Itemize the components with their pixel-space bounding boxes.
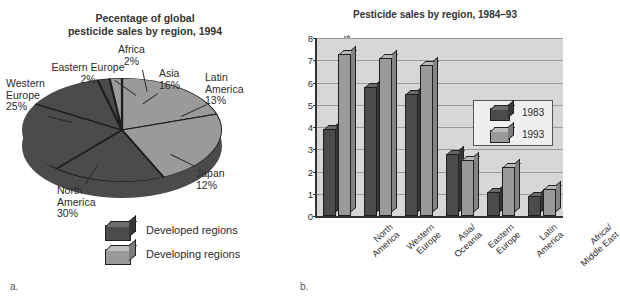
- pie-slices: [22, 78, 222, 182]
- cube-dark-icon: [490, 105, 512, 119]
- pie-legend-label-developing: Developing regions: [146, 248, 240, 260]
- bar: [364, 87, 377, 216]
- cube-light-icon: [105, 245, 135, 263]
- pie-label-japan-value: 12%: [196, 180, 225, 192]
- bar: [487, 192, 500, 216]
- pie-label-western-europe-l1: Western: [6, 78, 45, 90]
- pie-label-asia-value: 16%: [159, 80, 180, 92]
- bar: [379, 58, 392, 216]
- pie-label-japan: Japan 12%: [196, 168, 225, 191]
- pie-label-latin-america: Latin America 13%: [205, 72, 244, 107]
- x-axis-label: Africa/Middle East: [572, 222, 620, 268]
- bar: [420, 65, 433, 216]
- bar-legend-label-1993: 1993: [522, 129, 544, 140]
- y-axis-tick-label: 2: [308, 166, 313, 177]
- pie-title-line2: pesticide sales by region, 1994: [68, 25, 222, 37]
- bar-legend-item-1983: 1983: [474, 101, 552, 123]
- bar: [543, 189, 556, 216]
- y-axis-tick-label: 6: [308, 77, 313, 88]
- bar: [461, 160, 474, 216]
- x-axis-label: LatinAmerica: [527, 222, 565, 259]
- pie-label-western-europe-value: 25%: [6, 101, 45, 113]
- y-axis-tick-label: 3: [308, 144, 313, 155]
- pie-label-western-europe: Western Europe 25%: [6, 78, 45, 113]
- pie-legend-label-developed: Developed regions: [146, 224, 238, 236]
- bar-chart-legend: 1983 1993: [473, 100, 553, 146]
- bar: [405, 94, 418, 216]
- y-axis-tick-label: 0: [308, 211, 313, 222]
- figure-b-caption: b.: [300, 281, 308, 292]
- bar: [323, 129, 336, 216]
- bar-legend-item-1993: 1993: [474, 123, 552, 145]
- pie-label-eastern-europe-value: 2%: [33, 74, 143, 86]
- bar-legend-label-1983: 1983: [522, 107, 544, 118]
- pie-legend: Developed regions Developing regions: [105, 218, 240, 266]
- figure-a-caption: a.: [10, 281, 18, 292]
- y-axis-tick-label: 8: [308, 33, 313, 44]
- pie-graphic: [22, 78, 222, 203]
- cube-dark-icon: [105, 221, 135, 239]
- pie-label-africa-name: Africa: [118, 44, 145, 56]
- pie-top-face: [22, 78, 222, 182]
- y-axis-tick-label: 1: [308, 188, 313, 199]
- bar: [338, 54, 351, 216]
- y-axis-tick-label: 7: [308, 55, 313, 66]
- pie-title-line1: Pecentage of global: [95, 12, 194, 24]
- y-axis-tick-label: 5: [308, 99, 313, 110]
- pie-label-eastern-europe-name: Eastern Europe: [33, 62, 143, 74]
- pie-label-north-america-l1: North: [57, 185, 96, 197]
- bar: [446, 154, 459, 216]
- bar: [528, 196, 541, 216]
- cube-light-icon: [490, 127, 512, 141]
- bar-chart-plot-area: 012345678 1983 1993: [315, 38, 563, 218]
- x-axis-label: EasternEurope: [486, 222, 522, 258]
- pie-label-eastern-europe: Eastern Europe 2%: [33, 62, 143, 85]
- bar: [502, 167, 515, 216]
- figure-a-pie-chart: Pecentage of global pesticide sales by r…: [0, 0, 290, 302]
- pie-chart-title: Pecentage of global pesticide sales by r…: [0, 12, 290, 38]
- pie-label-latin-america-value: 13%: [205, 95, 244, 107]
- pie-legend-item-developing: Developing regions: [105, 242, 240, 266]
- y-axis-tick: [313, 216, 317, 217]
- pie-label-north-america-value: 30%: [57, 208, 96, 220]
- pie-label-latin-america-l1: Latin: [205, 72, 244, 84]
- bar-chart-title: Pesticide sales by region, 1984–93: [290, 9, 580, 20]
- pie-label-asia-name: Asia: [159, 68, 180, 80]
- pie-legend-item-developed: Developed regions: [105, 218, 240, 242]
- x-axis-label: WesternEurope: [405, 222, 443, 259]
- figure-b-bar-chart: Pesticide sales by region, 1984–93 Billi…: [290, 0, 580, 302]
- x-axis-label: Asia/Oceania: [446, 222, 484, 259]
- pie-label-japan-name: Japan: [196, 168, 225, 180]
- pie-label-north-america: North America 30%: [57, 185, 96, 220]
- x-axis-label: NorthAmerica: [363, 222, 401, 259]
- pie-label-asia: Asia 16%: [159, 68, 180, 91]
- y-axis-tick-label: 4: [308, 122, 313, 133]
